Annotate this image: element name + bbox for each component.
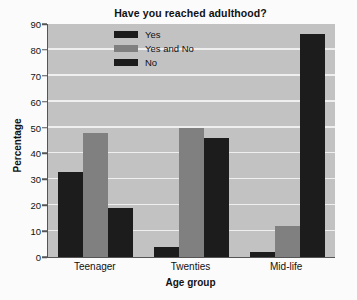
legend-item: Yes and No — [114, 42, 194, 55]
y-tick-label: 20 — [15, 200, 41, 211]
bar — [204, 138, 229, 257]
y-tick-label: 50 — [15, 122, 41, 133]
y-tick-label: 70 — [15, 70, 41, 81]
bar — [58, 172, 83, 257]
bar — [83, 133, 108, 257]
gridline — [48, 100, 335, 102]
y-tick-label: 10 — [15, 226, 41, 237]
bar-chart-figure: Have you reached adulthood? Percentage 0… — [0, 0, 357, 300]
y-tick-label: 40 — [15, 148, 41, 159]
chart-legend: YesYes and NoNo — [114, 28, 194, 70]
y-tick-label: 30 — [15, 174, 41, 185]
y-tick-label: 60 — [15, 96, 41, 107]
y-tick-label: 90 — [15, 19, 41, 30]
x-tick-label: Twenties — [171, 261, 210, 272]
legend-swatch — [114, 59, 138, 66]
y-tick-label: 80 — [15, 44, 41, 55]
x-axis-label: Age group — [47, 277, 334, 288]
gridline — [48, 74, 335, 76]
chart-title: Have you reached adulthood? — [47, 7, 334, 19]
y-tick-label: 0 — [15, 252, 41, 263]
legend-swatch — [114, 45, 138, 52]
bar — [300, 34, 325, 257]
legend-label: Yes and No — [145, 44, 194, 54]
legend-item: No — [114, 56, 194, 69]
bar — [179, 128, 204, 257]
legend-label: Yes — [145, 30, 161, 40]
bar — [108, 208, 133, 257]
x-tick-label: Mid-life — [270, 261, 302, 272]
bar — [154, 247, 179, 257]
bar — [250, 252, 275, 257]
legend-item: Yes — [114, 28, 194, 41]
legend-swatch — [114, 31, 138, 38]
bar — [275, 226, 300, 257]
legend-label: No — [145, 58, 157, 68]
x-tick-label: Teenager — [74, 261, 116, 272]
